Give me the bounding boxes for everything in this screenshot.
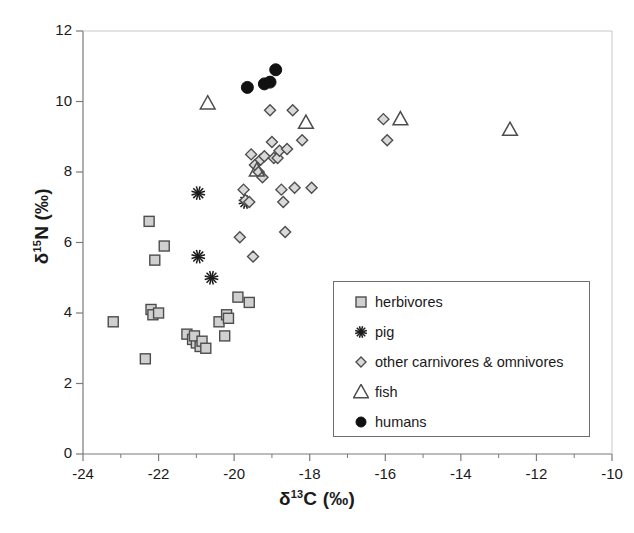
diamond-marker: [352, 354, 370, 370]
data-point-asterisk: [191, 186, 205, 200]
data-point-square: [140, 354, 150, 364]
x-tick-label: -24: [53, 465, 113, 482]
data-point-diamond: [287, 105, 298, 116]
legend-item-herbivores: herbivores: [352, 294, 443, 310]
square-legend-icon: [353, 294, 369, 310]
data-point-square: [154, 308, 164, 318]
y-tick-label: 4: [32, 303, 72, 320]
legend-label: humans: [375, 414, 427, 430]
x-tick-label: -18: [280, 465, 340, 482]
asterisk-marker: [352, 324, 370, 340]
y-tick-label: 12: [32, 21, 72, 38]
legend: herbivorespigother carnivores & omnivore…: [333, 281, 590, 437]
data-point-triangle: [299, 115, 314, 128]
diamond-glyph: [356, 357, 366, 367]
circle-marker: [352, 414, 370, 430]
data-point-circle: [241, 81, 253, 93]
data-point-diamond: [248, 251, 259, 262]
circle-glyph: [356, 417, 366, 427]
y-tick-label: 2: [32, 374, 72, 391]
data-point-diamond: [276, 184, 287, 195]
data-point-square: [159, 241, 169, 251]
triangle-legend-icon: [353, 384, 369, 400]
x-tick-label: -14: [431, 465, 491, 482]
data-point-diamond: [278, 196, 289, 207]
series-humans: [241, 64, 281, 94]
series-herbivores: [108, 216, 254, 363]
legend-item-humans: humans: [352, 414, 427, 430]
square-marker: [352, 294, 370, 310]
triangle-glyph: [354, 384, 369, 397]
data-point-diamond: [378, 114, 389, 125]
data-point-diamond: [238, 184, 249, 195]
y-tick-label: 6: [32, 233, 72, 250]
data-point-diamond: [246, 149, 257, 160]
legend-label: pig: [375, 324, 394, 340]
data-point-square: [201, 343, 211, 353]
data-point-square: [223, 313, 233, 323]
data-point-diamond: [306, 182, 317, 193]
x-tick-label: -10: [582, 465, 634, 482]
data-point-square: [144, 216, 154, 226]
x-tick-label: -12: [506, 465, 566, 482]
data-point-circle: [264, 76, 276, 88]
data-point-diamond: [266, 137, 277, 148]
data-point-diamond: [280, 226, 291, 237]
data-point-square: [244, 297, 254, 307]
data-point-diamond: [297, 135, 308, 146]
triangle-marker: [352, 384, 370, 400]
legend-item-pig: pig: [352, 324, 394, 340]
x-axis-title-text: δ13C (‰): [279, 488, 355, 509]
data-point-square: [220, 331, 230, 341]
data-point-square: [150, 255, 160, 265]
data-point-diamond: [234, 232, 245, 243]
y-tick-label: 0: [32, 444, 72, 461]
data-point-square: [108, 317, 118, 327]
data-point-triangle: [503, 122, 518, 135]
x-axis-title: δ13C (‰): [0, 488, 634, 510]
y-axis-title-text: δ15N (‰): [31, 188, 52, 264]
diamond-legend-icon: [353, 354, 369, 370]
data-point-triangle: [200, 96, 215, 109]
data-point-asterisk: [191, 250, 205, 264]
x-tick-label: -16: [355, 465, 415, 482]
asterisk-glyph: [355, 326, 367, 338]
asterisk-legend-icon: [353, 324, 369, 340]
data-point-diamond: [265, 105, 276, 116]
square-glyph: [356, 297, 366, 307]
legend-item-other-carnivores-omnivores: other carnivores & omnivores: [352, 354, 564, 370]
x-tick-label: -22: [129, 465, 189, 482]
x-tick-label: -20: [204, 465, 264, 482]
data-point-diamond: [382, 135, 393, 146]
data-point-square: [233, 292, 243, 302]
legend-item-fish: fish: [352, 384, 398, 400]
y-tick-label: 10: [32, 92, 72, 109]
circle-legend-icon: [353, 414, 369, 430]
legend-label: fish: [375, 384, 398, 400]
data-point-circle: [270, 64, 282, 76]
data-point-diamond: [289, 182, 300, 193]
series-fish: [200, 96, 517, 176]
legend-label: herbivores: [375, 294, 443, 310]
data-point-triangle: [393, 112, 408, 125]
scatter-plot-figure: δ13C (‰) δ15N (‰) -24-22-20-18-16-14-12-…: [0, 0, 634, 533]
legend-label: other carnivores & omnivores: [375, 354, 564, 370]
y-tick-label: 8: [32, 162, 72, 179]
plot-canvas: [0, 0, 634, 533]
data-point-asterisk: [205, 271, 219, 285]
